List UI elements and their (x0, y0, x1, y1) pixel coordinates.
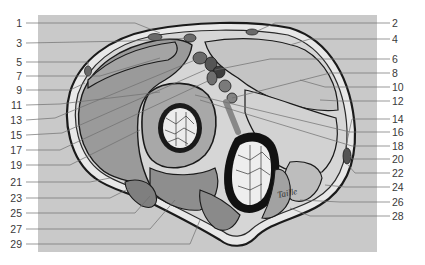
label-18: 18 (392, 141, 422, 151)
label-19: 19 (0, 160, 22, 170)
label-16: 16 (392, 127, 422, 137)
label-5: 5 (0, 57, 22, 67)
label-21: 21 (0, 177, 22, 187)
label-7: 7 (0, 71, 22, 81)
cross-section-illustration: Taille (0, 0, 425, 265)
label-15: 15 (0, 130, 22, 140)
label-11: 11 (0, 100, 22, 110)
vessel-right-lateral (343, 148, 351, 164)
label-1: 1 (0, 18, 22, 28)
label-22: 22 (392, 168, 422, 178)
label-20: 20 (392, 154, 422, 164)
label-9: 9 (0, 85, 22, 95)
label-23: 23 (0, 193, 22, 203)
label-2: 2 (392, 18, 422, 28)
label-29: 29 (0, 239, 22, 249)
label-13: 13 (0, 115, 22, 125)
label-14: 14 (392, 114, 422, 124)
label-27: 27 (0, 224, 22, 234)
label-12: 12 (392, 96, 422, 106)
label-26: 26 (392, 197, 422, 207)
label-28: 28 (392, 211, 422, 221)
label-6: 6 (392, 54, 422, 64)
label-8: 8 (392, 68, 422, 78)
label-4: 4 (392, 34, 422, 44)
label-25: 25 (0, 208, 22, 218)
anatomy-figure: Taille (0, 0, 425, 265)
label-17: 17 (0, 145, 22, 155)
label-3: 3 (0, 38, 22, 48)
label-24: 24 (392, 182, 422, 192)
label-10: 10 (392, 82, 422, 92)
vessel-superficial-top-right (246, 29, 258, 35)
